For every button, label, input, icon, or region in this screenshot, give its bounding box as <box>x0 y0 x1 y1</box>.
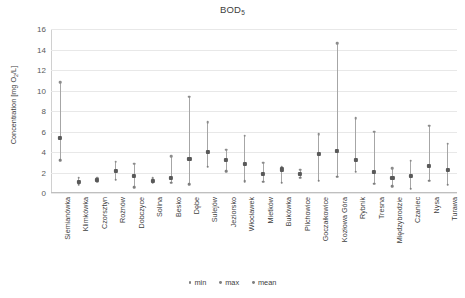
gridline-2 <box>51 173 457 174</box>
data-point-min[interactable] <box>428 179 431 182</box>
x-tick-label: Czorsztyn <box>100 197 109 229</box>
chart-legend: minmaxmean <box>0 278 465 287</box>
data-point-mean[interactable] <box>77 180 81 184</box>
x-tick-label: Rybnik <box>358 197 367 219</box>
legend-item-max[interactable]: max <box>219 278 239 287</box>
x-tick-label: Rożnów <box>118 197 127 223</box>
data-point-min[interactable] <box>373 183 376 186</box>
data-point-min[interactable] <box>244 180 247 183</box>
data-point-mean[interactable] <box>409 174 413 178</box>
data-point-min[interactable] <box>317 179 320 182</box>
data-point-min[interactable] <box>336 175 339 178</box>
data-point-max[interactable] <box>447 143 450 146</box>
data-point-min[interactable] <box>447 184 450 187</box>
data-point-mean[interactable] <box>317 152 321 156</box>
x-tick-label: Włocławek <box>247 197 256 231</box>
data-point-min[interactable] <box>225 170 228 173</box>
y-tick-label-0: 0 <box>42 189 46 198</box>
plot-area: 0246810121416 <box>51 29 457 193</box>
data-point-min[interactable] <box>59 159 62 162</box>
data-point-mean[interactable] <box>150 179 154 183</box>
data-point-min[interactable] <box>262 180 265 183</box>
data-point-max[interactable] <box>114 160 117 163</box>
data-point-mean[interactable] <box>261 171 265 175</box>
data-point-max[interactable] <box>188 95 191 98</box>
data-point-max[interactable] <box>225 149 228 152</box>
data-point-max[interactable] <box>410 159 413 162</box>
x-tick-label: Klimkówka <box>81 197 90 231</box>
x-tick-label: Turawa <box>450 197 459 221</box>
gridline-12 <box>51 70 457 71</box>
data-point-max[interactable] <box>207 121 210 124</box>
data-point-mean[interactable] <box>132 174 136 178</box>
y-tick-label-14: 14 <box>37 45 46 54</box>
x-tick-label: Jeziorsko <box>229 197 238 227</box>
data-point-max[interactable] <box>244 134 247 137</box>
y-tick-label-16: 16 <box>37 25 46 34</box>
data-point-min[interactable] <box>299 176 302 179</box>
data-point-min[interactable] <box>410 188 413 191</box>
data-point-mean[interactable] <box>353 158 357 162</box>
data-point-mean[interactable] <box>114 169 118 173</box>
legend-marker-icon <box>252 281 255 284</box>
data-point-mean[interactable] <box>224 158 228 162</box>
data-point-min[interactable] <box>188 183 191 186</box>
data-point-mean[interactable] <box>206 149 210 153</box>
legend-item-mean[interactable]: mean <box>252 278 276 287</box>
data-point-min[interactable] <box>114 178 117 181</box>
data-point-max[interactable] <box>59 81 62 84</box>
data-point-mean[interactable] <box>446 168 450 172</box>
data-point-max[interactable] <box>170 155 173 158</box>
data-point-mean[interactable] <box>335 149 339 153</box>
data-point-mean[interactable] <box>390 176 394 180</box>
data-point-mean[interactable] <box>95 178 99 182</box>
x-tick-label: Dębe <box>192 197 201 214</box>
range-line <box>355 118 356 171</box>
y-axis-title-tail: /L] <box>9 66 18 74</box>
data-point-mean[interactable] <box>243 162 247 166</box>
data-point-max[interactable] <box>391 167 394 170</box>
y-tick-label-2: 2 <box>42 168 46 177</box>
range-line <box>374 132 375 184</box>
range-line <box>318 134 319 181</box>
data-point-max[interactable] <box>77 176 80 179</box>
data-point-min[interactable] <box>133 186 136 189</box>
data-point-max[interactable] <box>354 117 357 120</box>
y-axis-title: Concentration [mg O2/L] <box>9 42 21 168</box>
chart-title-subscript: 5 <box>241 9 245 16</box>
gridline-4 <box>51 152 457 153</box>
data-point-min[interactable] <box>391 185 394 188</box>
data-point-max[interactable] <box>317 133 320 136</box>
range-line <box>207 122 208 167</box>
data-point-max[interactable] <box>262 162 265 165</box>
x-tick-label: Czaniec <box>413 197 422 223</box>
gridline-14 <box>51 50 457 51</box>
y-tick-label-6: 6 <box>42 127 46 136</box>
gridline-16 <box>51 29 457 30</box>
data-point-mean[interactable] <box>169 176 173 180</box>
data-point-max[interactable] <box>428 125 431 128</box>
data-point-mean[interactable] <box>280 167 284 171</box>
data-point-min[interactable] <box>280 182 283 185</box>
y-axis-title-text: Concentration [mg O <box>9 77 18 144</box>
data-point-max[interactable] <box>299 169 302 172</box>
range-line <box>447 144 448 185</box>
data-point-mean[interactable] <box>372 169 376 173</box>
data-point-mean[interactable] <box>187 157 191 161</box>
y-tick-label-12: 12 <box>37 66 46 75</box>
data-point-max[interactable] <box>336 42 339 45</box>
range-line <box>244 136 245 182</box>
y-tick-label-8: 8 <box>42 107 46 116</box>
data-point-mean[interactable] <box>427 164 431 168</box>
data-point-min[interactable] <box>207 166 210 169</box>
data-point-max[interactable] <box>373 130 376 133</box>
y-tick-label-10: 10 <box>37 86 46 95</box>
data-point-min[interactable] <box>354 170 357 173</box>
range-line <box>429 126 430 181</box>
data-point-mean[interactable] <box>58 136 62 140</box>
data-point-min[interactable] <box>170 182 173 185</box>
data-point-max[interactable] <box>133 163 136 166</box>
data-point-mean[interactable] <box>298 172 302 176</box>
legend-label: mean <box>258 278 277 287</box>
legend-item-min[interactable]: min <box>189 278 207 287</box>
